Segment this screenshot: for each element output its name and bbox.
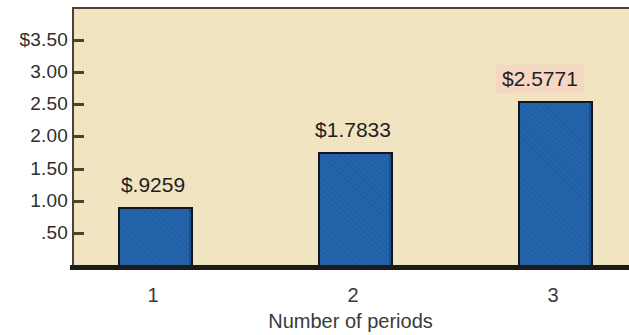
bar-period-3[interactable] [518,101,593,267]
bar-period-1[interactable] [118,207,193,267]
y-axis-tick [72,200,84,203]
bar-texture [320,154,391,265]
bar-value-label-period-3: $2.5771 [496,65,584,93]
bar-value-label-period-1: $.9259 [83,173,223,197]
x-axis-title: Number of periods [72,310,629,332]
y-axis-labels: $3.50 3.00 2.50 2.00 1.50 1.00 .50 [0,0,68,335]
x-axis-line [70,265,629,270]
y-axis-tick-label: 3.00 [2,62,68,81]
y-axis-tick [72,71,84,74]
y-axis-tick [72,39,84,42]
x-axis-tick-label-2: 2 [313,284,393,306]
bar-value-label-period-2: $1.7833 [283,118,423,142]
bar-texture [520,103,591,265]
y-axis-tick-label: .50 [2,223,68,242]
y-axis-tick-label: 2.50 [2,94,68,113]
bar-period-2[interactable] [318,152,393,267]
y-axis-tick [72,232,84,235]
bar-texture [120,209,191,265]
y-axis-tick [72,103,84,106]
y-axis-tick-label: 1.50 [2,159,68,178]
x-axis-tick-label-1: 1 [113,284,193,306]
y-axis-tick-label: $3.50 [2,30,68,49]
y-axis-tick-label: 2.00 [2,126,68,145]
y-axis-tick [72,168,84,171]
y-axis-tick [72,135,84,138]
y-axis-tick-label: 1.00 [2,191,68,210]
x-axis-tick-label-3: 3 [513,284,593,306]
bar-chart-figure: $3.50 3.00 2.50 2.00 1.50 1.00 .50 $.925… [0,0,629,335]
